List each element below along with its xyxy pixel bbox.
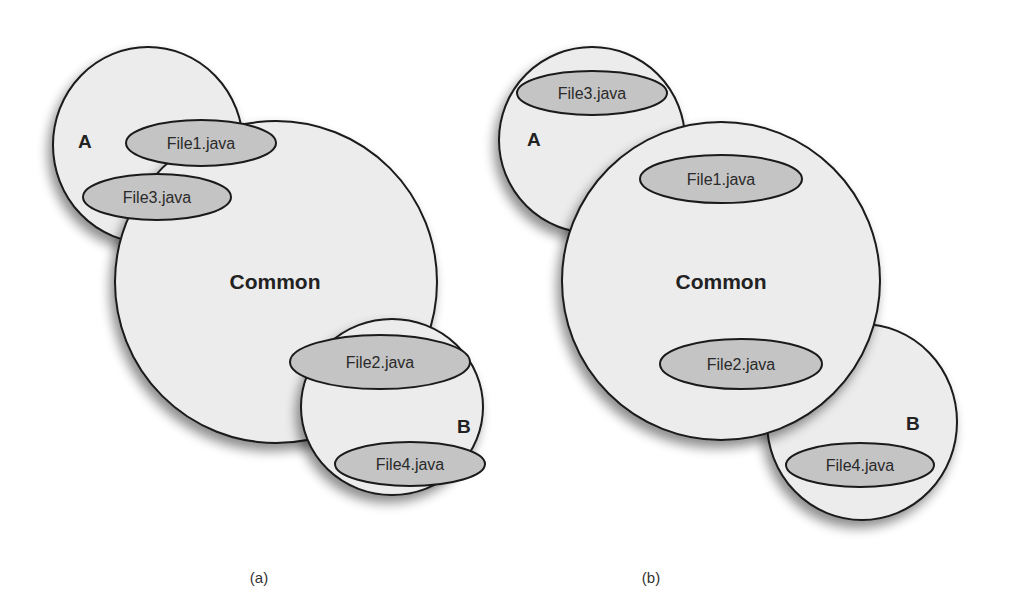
file-label: File1.java	[167, 135, 236, 152]
panel-b-caption: (b)	[642, 569, 660, 586]
set-b-label: B	[457, 416, 471, 437]
panel-a: A Common B File1.java File3.java File2.j…	[53, 47, 485, 586]
set-common-label: Common	[230, 270, 321, 293]
file-label: File4.java	[376, 456, 445, 473]
file-label: File1.java	[687, 171, 756, 188]
set-common-label: Common	[676, 270, 767, 293]
set-a-label: A	[527, 129, 541, 150]
panel-a-caption: (a)	[250, 569, 268, 586]
panel-b: A Common B File3.java File1.java File2.j…	[499, 47, 957, 586]
file-label: File4.java	[826, 457, 895, 474]
set-b-label: B	[906, 413, 920, 434]
file-label: File2.java	[346, 354, 415, 371]
file-label: File3.java	[558, 85, 627, 102]
set-a-label: A	[78, 131, 92, 152]
file-label: File3.java	[123, 189, 192, 206]
diagram-canvas: A Common B File1.java File3.java File2.j…	[0, 0, 1010, 613]
file-label: File2.java	[707, 356, 776, 373]
